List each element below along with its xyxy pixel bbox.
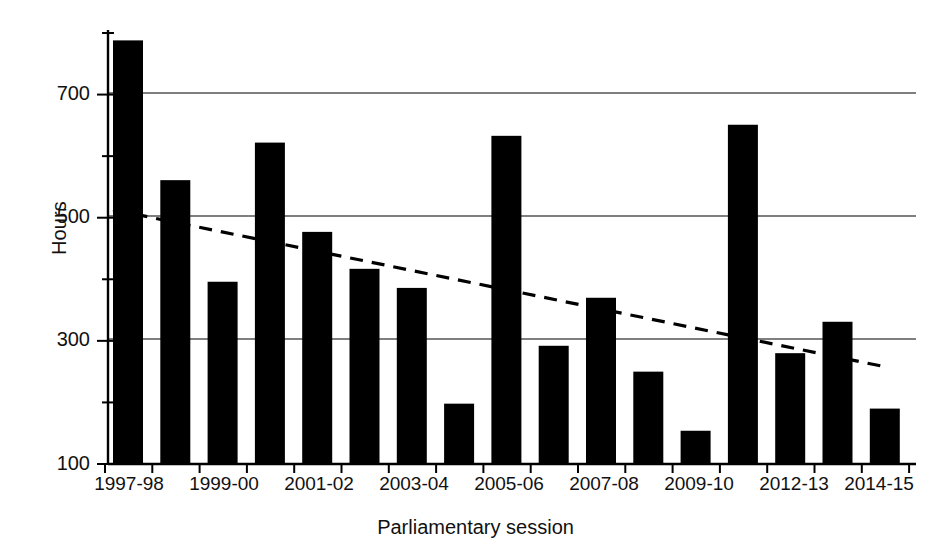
- bar: [823, 322, 853, 464]
- plot-area: [0, 0, 951, 559]
- x-ticks: [105, 464, 909, 473]
- bar: [539, 346, 569, 464]
- bar: [255, 143, 285, 464]
- bar: [775, 353, 805, 464]
- bar: [444, 404, 474, 464]
- bar: [633, 372, 663, 464]
- bar: [397, 288, 427, 464]
- bar-chart: Hours Parliamentary session 700 500 300 …: [0, 0, 951, 559]
- bar: [160, 180, 190, 464]
- bar: [728, 125, 758, 464]
- bar: [586, 298, 616, 464]
- bar: [113, 40, 143, 464]
- bars-group: [113, 40, 900, 464]
- bar: [681, 431, 711, 464]
- bar: [350, 269, 380, 464]
- bar: [870, 409, 900, 464]
- bar: [302, 232, 332, 464]
- bar: [491, 136, 521, 464]
- bar: [208, 282, 238, 464]
